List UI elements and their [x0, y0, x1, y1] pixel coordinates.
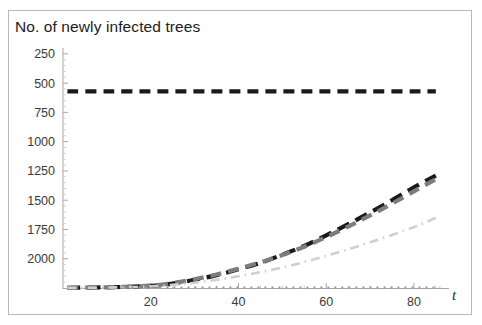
y-tick-label: 1250 — [27, 164, 55, 178]
plot-area: 20001750150012501000750500250 20406080 t — [0, 0, 482, 325]
data-series-group — [67, 91, 440, 288]
x-axis-label: t — [452, 287, 457, 303]
y-axis-tick-labels: 20001750150012501000750500250 — [27, 47, 55, 266]
y-tick-label: 1000 — [27, 135, 55, 149]
chart-figure: No. of newly infected trees 200017501500… — [0, 0, 482, 325]
y-tick-label: 2000 — [27, 252, 55, 266]
x-tick-label: 80 — [407, 295, 421, 309]
y-tick-label: 1500 — [27, 194, 55, 208]
x-tick-label: 40 — [232, 295, 246, 309]
y-tick-label: 500 — [34, 77, 55, 91]
y-tick-label: 1750 — [27, 223, 55, 237]
y-tick-label: 250 — [34, 47, 55, 61]
series-line-black-dashed-growth — [67, 176, 435, 288]
x-axis-tick-labels: 20406080 — [144, 295, 421, 309]
y-tick-label: 750 — [34, 106, 55, 120]
x-tick-label: 60 — [319, 295, 333, 309]
series-line-light-gray-dashdot-growth — [67, 218, 435, 288]
x-tick-label: 20 — [144, 295, 158, 309]
y-axis-ticks — [63, 54, 68, 282]
series-line-gray-dashed-growth — [67, 179, 435, 288]
